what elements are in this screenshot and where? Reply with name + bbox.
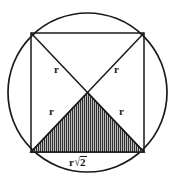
label-radius-upper-left: r <box>54 64 59 75</box>
geometry-figure: r r r r r√2 <box>0 0 170 187</box>
label-radius-upper-right: r <box>114 64 119 75</box>
radicand-value: 2 <box>80 156 87 169</box>
label-radius-lower-left: r <box>49 106 54 117</box>
label-radius-lower-right: r <box>119 106 124 117</box>
radical-group: √2 <box>74 156 87 169</box>
radical-sign-icon: √ <box>75 156 81 168</box>
shaded-triangle <box>31 93 144 153</box>
label-hypotenuse: r√2 <box>69 156 87 169</box>
